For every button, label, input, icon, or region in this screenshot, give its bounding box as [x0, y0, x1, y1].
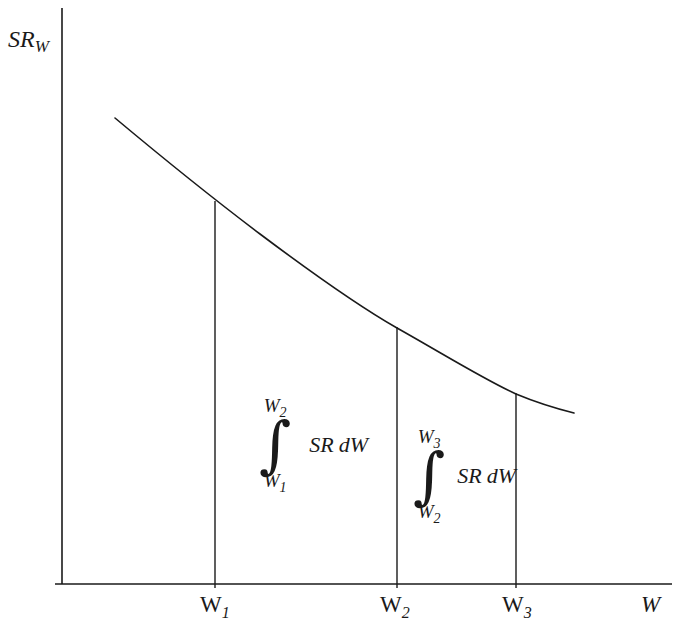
x-tick-label-w3: W3 — [502, 592, 532, 622]
x-tick-label-w2: W2 — [380, 592, 410, 622]
integral-1-differential: dW — [334, 432, 368, 457]
x-tick-label-w1-subscript: 1 — [222, 604, 230, 621]
integral-1-lower-limit-subscript: 1 — [280, 480, 287, 495]
integral-2-integrand: SRdW — [457, 463, 516, 489]
social-rate-of-return-figure: SRW W W1 W2 W3 W2 ∫ W1 SRdW W3 ∫ W2 SRdW — [0, 0, 692, 639]
x-tick-label-w2-subscript: 2 — [402, 604, 410, 621]
integral-1-integrand-body: SR — [309, 432, 333, 457]
y-axis-label-subscript: W — [35, 37, 49, 56]
y-axis-label-main: SR — [8, 26, 35, 52]
integral-2-lower-limit-subscript: 2 — [434, 511, 441, 526]
integral-2-integrand-body: SR — [457, 463, 481, 488]
integral-1-integrand: SRdW — [309, 432, 368, 458]
integral-2-differential: dW — [482, 463, 516, 488]
y-axis-label: SRW — [8, 26, 49, 57]
x-tick-label-w3-subscript: 3 — [524, 604, 532, 621]
integral-1-limits: W2 ∫ W1 — [259, 396, 291, 495]
integral-expression-2: W3 ∫ W2 SRdW — [413, 427, 516, 526]
integral-2-limits: W3 ∫ W2 — [413, 427, 445, 526]
x-tick-label-w2-base: W — [380, 592, 402, 617]
integral-expression-1: W2 ∫ W1 SRdW — [259, 396, 368, 495]
integral-2-lower-limit-base: W — [418, 501, 434, 522]
x-tick-label-w1-base: W — [200, 592, 222, 617]
x-tick-label-w1: W1 — [200, 592, 230, 622]
integral-2-sign-icon: ∫ — [413, 452, 445, 500]
integral-2-lower-limit: W2 — [418, 502, 441, 526]
x-axis-label: W — [641, 592, 660, 618]
return-curve — [115, 118, 574, 413]
integral-1-lower-limit-base: W — [264, 470, 280, 491]
x-tick-label-w3-base: W — [502, 592, 524, 617]
integral-1-sign-icon: ∫ — [259, 421, 291, 469]
plot-canvas — [0, 0, 692, 639]
integral-1-lower-limit: W1 — [264, 471, 287, 495]
